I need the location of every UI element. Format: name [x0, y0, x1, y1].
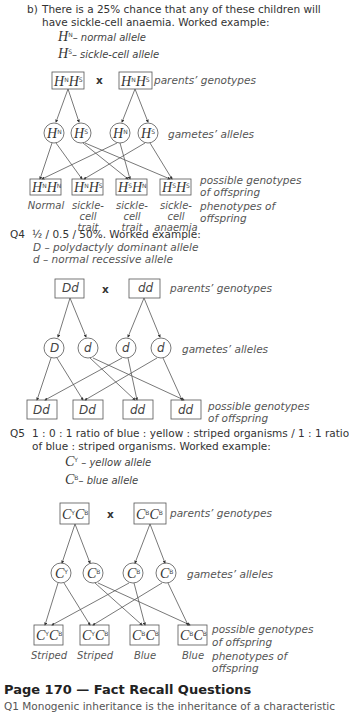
q5-offspring-1: CYCB — [36, 628, 62, 643]
q5-gamete-4: CB — [160, 566, 173, 581]
q5-parent-1: CYCB — [62, 507, 88, 522]
q5-gametes-label: gametes’ alleles — [187, 568, 273, 580]
q5-cross-symbol: x — [107, 508, 114, 521]
q5-offspring-label-1: possible genotypes — [212, 623, 313, 635]
q5-parent-2: CBCB — [136, 507, 163, 522]
q5-phenotype-1: Striped — [27, 650, 71, 661]
q5-phenotype-3: Blue — [123, 650, 167, 661]
cut-off-line: Q1 Monogenic inheritance is the inherita… — [4, 700, 335, 712]
q5-pheno-label-1: phenotypes of — [212, 650, 287, 662]
q5-offspring-label-2: of offspring — [212, 636, 272, 648]
q5-offspring-4: CBCB — [180, 628, 207, 643]
q5-parents-label: parents’ genotypes — [170, 507, 272, 519]
q5-offspring-3: CBCB — [132, 628, 159, 643]
q5-pheno-label-2: offspring — [212, 662, 259, 674]
q5-gamete-2: CB — [87, 566, 100, 581]
q5-phenotype-2: Striped — [73, 650, 117, 661]
section-heading: Page 170 — Fact Recall Questions — [4, 682, 251, 697]
q5-gamete-3: CB — [127, 566, 140, 581]
q5-offspring-2: CYCB — [82, 628, 108, 643]
q5-phenotype-4: Blue — [171, 650, 215, 661]
q5-gamete-1: CY — [55, 566, 68, 581]
